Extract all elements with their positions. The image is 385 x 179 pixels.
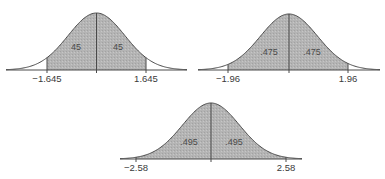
shaded-area [228, 14, 348, 70]
area-label-left: .495 [180, 137, 198, 147]
normal-curves-figure: −1.6451.6454545 −1.961.96.475.475 −2.582… [0, 0, 385, 179]
area-label-right: 45 [113, 42, 123, 52]
z-label-right: 1.645 [134, 73, 158, 84]
area-label-right: .475 [303, 47, 321, 57]
area-label-left: 45 [71, 42, 81, 52]
area-label-left: .475 [260, 47, 278, 57]
z-label-right: 2.58 [277, 162, 296, 173]
normal-curve-2: −1.961.96.475.475 [198, 14, 380, 84]
normal-curve-1: −1.6451.6454545 [6, 13, 187, 84]
z-label-left: −1.96 [216, 73, 240, 84]
normal-curve-3: −2.582.58.495.495 [120, 103, 302, 173]
z-label-right: 1.96 [339, 73, 358, 84]
z-label-left: −2.58 [124, 162, 148, 173]
z-label-left: −1.645 [32, 73, 61, 84]
area-label-right: .495 [225, 137, 243, 147]
